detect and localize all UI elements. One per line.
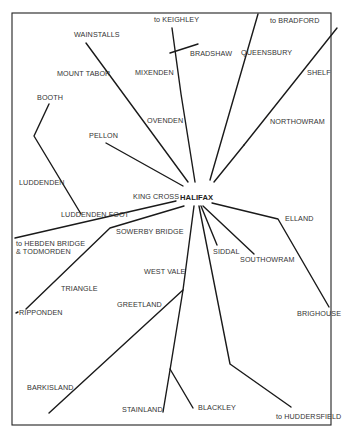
- route-greetland: [49, 206, 194, 413]
- label-to-hebden-2[interactable]: & TODMORDEN: [16, 247, 71, 256]
- label-elland[interactable]: ELLAND: [285, 214, 314, 223]
- label-west-vale[interactable]: WEST VALE: [144, 267, 185, 276]
- route-stainland: [163, 290, 183, 412]
- route-map: HALIFAX to KEIGHLEY to BRADFORD WAINSTAL…: [0, 0, 348, 436]
- label-to-huddersfield[interactable]: to HUDDERSFIELD: [276, 412, 341, 421]
- label-luddenden-foot[interactable]: LUDDENDEN FOOT: [61, 210, 130, 219]
- label-bradshaw[interactable]: BRADSHAW: [190, 49, 232, 58]
- label-triangle[interactable]: TRIANGLE: [61, 284, 98, 293]
- route-blackley: [170, 369, 193, 408]
- label-queensbury[interactable]: QUEENSBURY: [241, 48, 292, 57]
- label-siddal[interactable]: SIDDAL: [213, 247, 240, 256]
- label-greetland[interactable]: GREETLAND: [117, 300, 162, 309]
- label-brighouse[interactable]: BRIGHOUSE: [297, 309, 341, 318]
- label-king-cross[interactable]: KING CROSS: [133, 192, 179, 201]
- route-wainstalls: [86, 43, 188, 182]
- label-stainland[interactable]: STAINLAND: [122, 405, 163, 414]
- label-shelf[interactable]: SHELF: [307, 68, 331, 77]
- label-southowram[interactable]: SOUTHOWRAM: [240, 255, 295, 264]
- label-mixenden[interactable]: MIXENDEN: [135, 68, 174, 77]
- label-sowerby-bridge[interactable]: SOWERBY BRIDGE: [116, 227, 184, 236]
- label-barkisland[interactable]: BARKISLAND: [27, 383, 74, 392]
- label-ovenden[interactable]: OVENDEN: [147, 116, 183, 125]
- label-wainstalls[interactable]: WAINSTALLS: [74, 30, 120, 39]
- route-pellon: [106, 143, 183, 186]
- route-shelf: [244, 28, 337, 145]
- label-to-bradford[interactable]: to BRADFORD: [270, 16, 319, 25]
- label-mount-tabor[interactable]: MOUNT TABOR: [57, 69, 110, 78]
- route-ripponden-tail: [16, 312, 18, 313]
- label-blackley[interactable]: BLACKLEY: [198, 403, 236, 412]
- label-northowram[interactable]: NORTHOWRAM: [270, 117, 325, 126]
- route-queensbury: [210, 14, 258, 180]
- route-booth: [34, 104, 81, 214]
- label-ripponden[interactable]: RIPPONDEN: [19, 308, 63, 317]
- label-luddenden[interactable]: LUDDENDEN: [19, 178, 65, 187]
- label-booth[interactable]: BOOTH: [37, 93, 63, 102]
- label-pellon[interactable]: PELLON: [89, 131, 118, 140]
- route-sowerby: [26, 206, 184, 309]
- label-to-keighley[interactable]: to KEIGHLEY: [154, 15, 199, 24]
- label-halifax[interactable]: HALIFAX: [180, 193, 213, 202]
